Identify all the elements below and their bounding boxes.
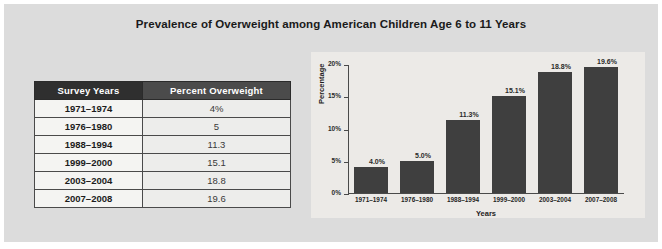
- bar: 4.0%: [354, 167, 388, 193]
- bar: 11.3%: [446, 120, 480, 193]
- y-axis-tick: 0%: [344, 194, 349, 195]
- y-axis-tick: 20%: [344, 65, 349, 66]
- bar: 15.1%: [492, 96, 526, 193]
- x-axis-tick-label: 2003–2004: [529, 196, 581, 203]
- bar-value-label: 5.0%: [400, 152, 446, 159]
- cell-percent-overweight: 18.8: [143, 172, 291, 190]
- y-axis-tick-label: 15%: [328, 92, 341, 99]
- y-axis-tick: 15%: [344, 97, 349, 98]
- cell-survey-years: 1999–2000: [35, 154, 143, 172]
- prevalence-data-table: Survey Years Percent Overweight 1971–197…: [34, 81, 291, 208]
- cell-percent-overweight: 5: [143, 118, 291, 136]
- bar-chart-panel: Percentage 0%5%10%15%20% 4.0%1971–19745.…: [311, 52, 645, 218]
- column-header-survey-years: Survey Years: [35, 82, 143, 100]
- cell-percent-overweight: 11.3: [143, 136, 291, 154]
- cell-percent-overweight: 15.1: [143, 154, 291, 172]
- table-row: 1976–19805: [35, 118, 291, 136]
- figure-title: Prevalence of Overweight among American …: [4, 18, 658, 30]
- x-axis-line: [348, 193, 624, 194]
- figure-panel: Prevalence of Overweight among American …: [4, 4, 658, 242]
- bar-value-label: 15.1%: [492, 87, 538, 94]
- y-axis-tick-label: 5%: [332, 157, 341, 164]
- table-row: 1971–19744%: [35, 100, 291, 118]
- cell-survey-years: 2003–2004: [35, 172, 143, 190]
- cell-percent-overweight: 19.6: [143, 190, 291, 208]
- bar: 19.6%: [584, 67, 618, 193]
- x-axis-title: Years: [348, 209, 624, 218]
- cell-survey-years: 1976–1980: [35, 118, 143, 136]
- x-axis-tick-label: 2007–2008: [575, 196, 627, 203]
- x-axis-tick-label: 1976–1980: [391, 196, 443, 203]
- y-axis-tick: 10%: [344, 130, 349, 131]
- bar-value-label: 19.6%: [584, 58, 630, 65]
- table-row: 2007–200819.6: [35, 190, 291, 208]
- plot-area: 0%5%10%15%20% 4.0%1971–19745.0%1976–1980…: [348, 65, 624, 194]
- y-axis-tick-label: 20%: [328, 60, 341, 67]
- table-row: 1988–199411.3: [35, 136, 291, 154]
- cell-survey-years: 2007–2008: [35, 190, 143, 208]
- cell-percent-overweight: 4%: [143, 100, 291, 118]
- x-axis-tick-label: 1971–1974: [345, 196, 397, 203]
- cell-survey-years: 1971–1974: [35, 100, 143, 118]
- table-row: 2003–200418.8: [35, 172, 291, 190]
- x-axis-tick-label: 1988–1994: [437, 196, 489, 203]
- table-row: 1999–200015.1: [35, 154, 291, 172]
- bar: 5.0%: [400, 161, 434, 193]
- y-axis-tick-label: 10%: [328, 125, 341, 132]
- y-axis-title: Percentage: [317, 64, 326, 104]
- bar-value-label: 11.3%: [446, 111, 492, 118]
- column-header-percent-overweight: Percent Overweight: [143, 82, 291, 100]
- table-header-row: Survey Years Percent Overweight: [35, 82, 291, 100]
- y-axis-tick-label: 0%: [332, 189, 341, 196]
- x-axis-tick-label: 1999–2000: [483, 196, 535, 203]
- bar-value-label: 4.0%: [354, 158, 400, 165]
- cell-survey-years: 1988–1994: [35, 136, 143, 154]
- bar: 18.8%: [538, 72, 572, 193]
- y-axis-tick: 5%: [344, 162, 349, 163]
- bar-value-label: 18.8%: [538, 63, 584, 70]
